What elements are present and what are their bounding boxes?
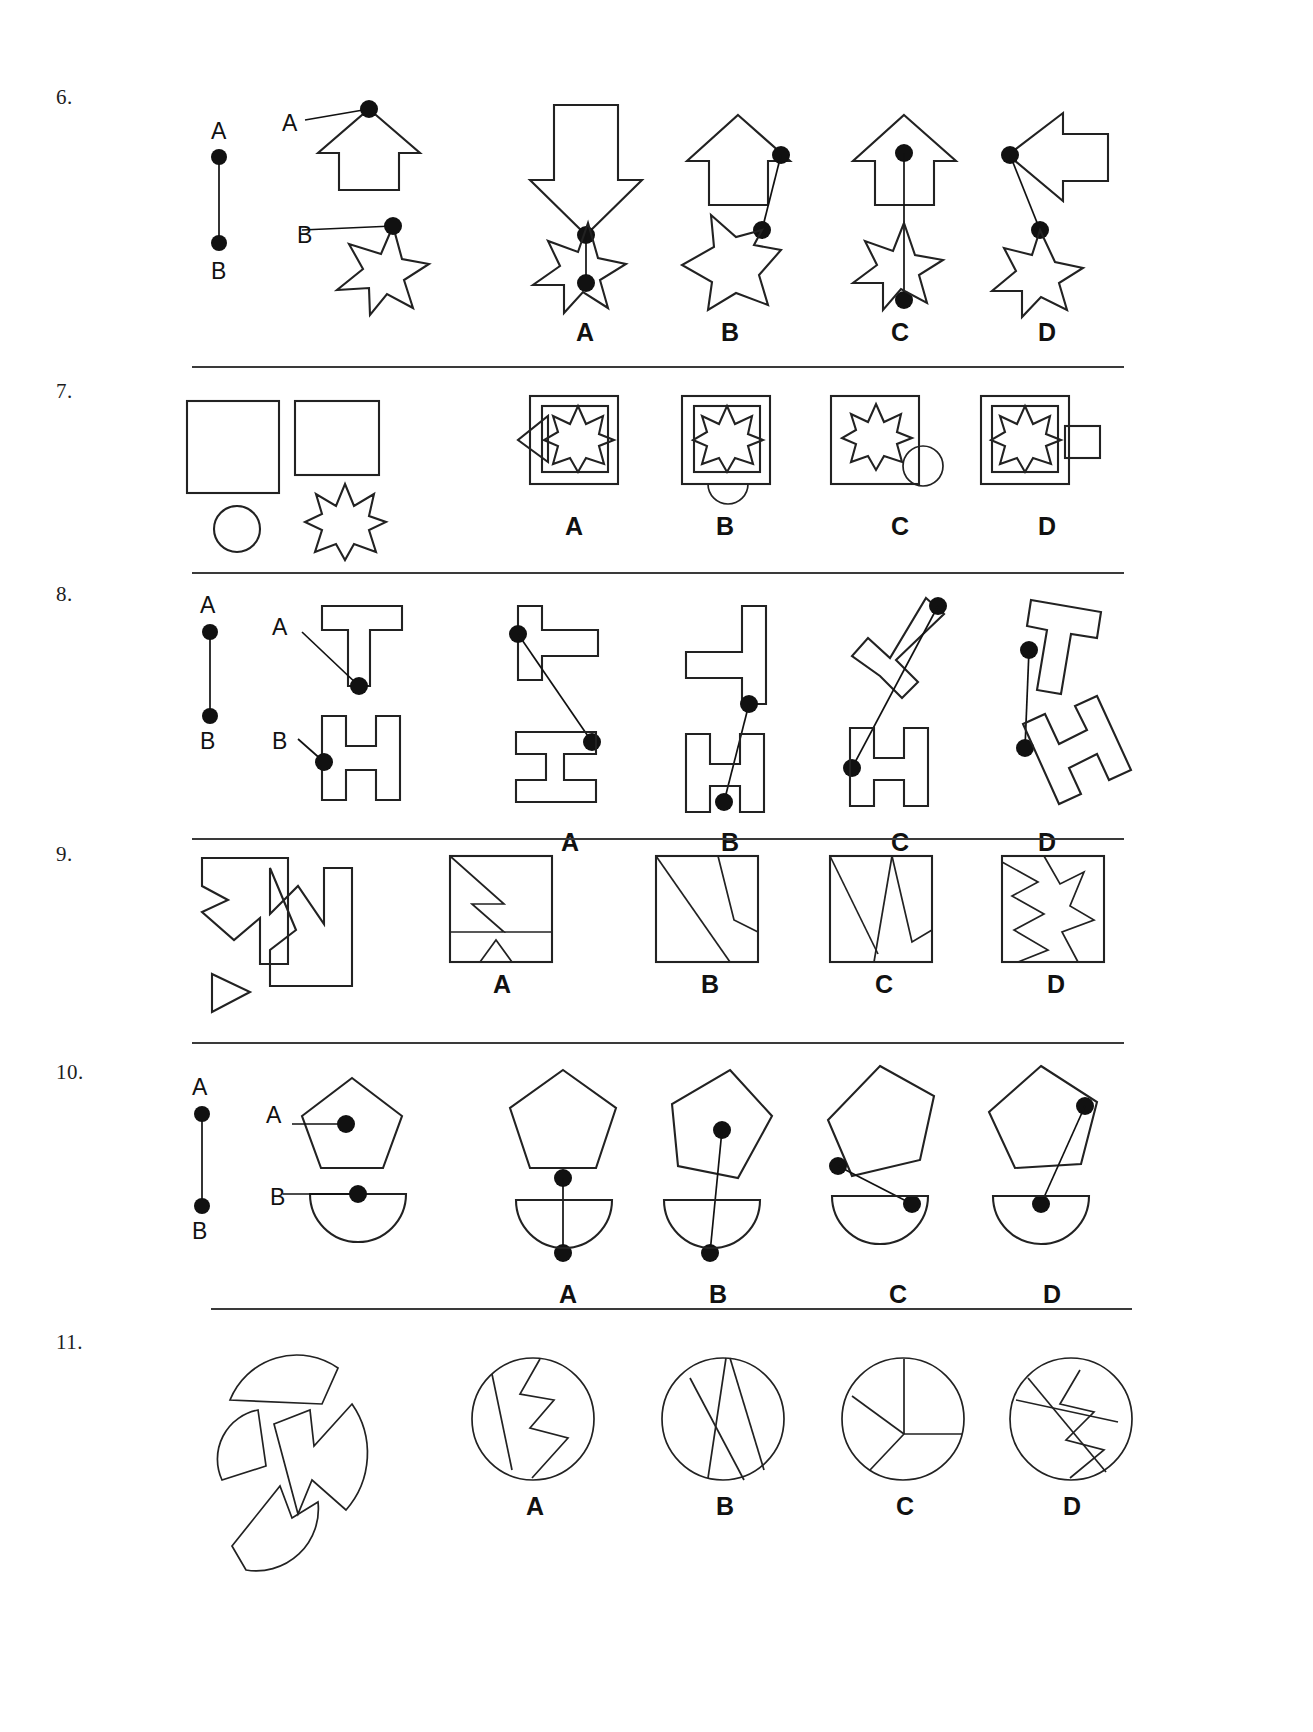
question-row-11: 11. A B (0, 1312, 1313, 1572)
q8-prompt-letter-T-block (320, 604, 420, 704)
q7-option-label-a[interactable]: A (554, 512, 594, 541)
question-number-8: 8. (56, 582, 73, 607)
q7-prompt-circle (212, 504, 264, 556)
q7-option-label-c[interactable]: C (880, 512, 920, 541)
q7-option-label-d[interactable]: D (1027, 512, 1067, 541)
worksheet-page: 6. A B A B A (0, 0, 1313, 1732)
q10-option-label-a[interactable]: A (548, 1280, 588, 1309)
q11-option-label-d[interactable]: D (1052, 1492, 1092, 1521)
q6-prompt-label-a: A (282, 110, 297, 137)
q8-key-label-b: B (200, 728, 215, 755)
q9-option-label-c[interactable]: C (864, 970, 904, 999)
q10-option-b-graphic (660, 1068, 780, 1278)
q11-option-label-b[interactable]: B (705, 1492, 745, 1521)
q8-key-label-a: A (200, 592, 215, 619)
question-number-9: 9. (56, 842, 73, 867)
q10-key-label-b: B (192, 1218, 207, 1245)
q7-prompt-small-square (294, 400, 384, 480)
q8-key-connector (190, 620, 250, 730)
q7-option-label-b[interactable]: B (705, 512, 745, 541)
question-number-10: 10. (56, 1060, 84, 1085)
q8-option-d-graphic (995, 598, 1125, 823)
question-row-6: 6. A B A B A (0, 0, 1313, 370)
q6-option-c-graphic (843, 105, 968, 310)
q8-prompt-label-a: A (272, 614, 287, 641)
q6-option-label-c[interactable]: C (880, 318, 920, 347)
question-number-7: 7. (56, 379, 73, 404)
q6-key-label-b: B (211, 258, 226, 285)
q11-option-c-graphic (840, 1356, 970, 1486)
q7-prompt-large-square (186, 400, 286, 500)
q6-prompt-label-b: B (297, 222, 312, 249)
q6-prompt-shape-six-point-star (325, 212, 445, 317)
q8-prompt-label-b: B (272, 728, 287, 755)
q6-option-label-a[interactable]: A (565, 318, 605, 347)
q9-option-label-d[interactable]: D (1036, 970, 1076, 999)
q6-option-a-star (528, 218, 643, 323)
q6-option-b-graphic (676, 105, 806, 305)
q9-option-c-graphic (828, 854, 938, 969)
q10-prompt-semicircle (308, 1186, 413, 1248)
divider-after-q6 (192, 366, 1124, 368)
question-row-10: 10. A B A B A (0, 1046, 1313, 1301)
q7-option-d-graphic (979, 394, 1114, 514)
divider-after-q9 (192, 1042, 1124, 1044)
q10-prompt-label-b: B (270, 1184, 285, 1211)
q11-prompt-circle-segment-bottom (222, 1484, 337, 1574)
q9-prompt-small-triangle (208, 970, 254, 1016)
divider-after-q8 (192, 838, 1124, 840)
q6-key-connector (200, 145, 260, 255)
question-row-9: 9. A B C (0, 842, 1313, 1027)
q11-option-b-graphic (660, 1356, 790, 1486)
q9-option-d-graphic (1000, 854, 1115, 969)
q9-prompt-zigzag-piece-right (262, 868, 367, 988)
q8-option-b-graphic (672, 604, 792, 819)
q9-option-b-graphic (654, 854, 764, 969)
q10-key-label-a: A (192, 1074, 207, 1101)
q7-option-c-graphic (829, 394, 954, 514)
q8-prompt-letter-H-block (320, 714, 420, 804)
q9-option-label-b[interactable]: B (690, 970, 730, 999)
q8-option-c-graphic (834, 596, 964, 821)
q7-option-a-graphic (518, 394, 628, 494)
question-row-8: 8. A B A B A (0, 576, 1313, 831)
q10-option-a-graphic (508, 1068, 628, 1278)
q10-option-d-graphic (985, 1064, 1115, 1279)
q8-option-a-graphic (510, 604, 630, 819)
q10-option-label-d[interactable]: D (1032, 1280, 1072, 1309)
q10-option-label-b[interactable]: B (698, 1280, 738, 1309)
divider-after-q10 (211, 1308, 1132, 1310)
q6-option-d-graphic (988, 105, 1118, 305)
question-number-11: 11. (56, 1330, 83, 1355)
q6-prompt-shape-up-arrow-house (305, 95, 435, 205)
question-number-6: 6. (56, 85, 73, 110)
q11-option-label-c[interactable]: C (885, 1492, 925, 1521)
q10-option-c-graphic (822, 1064, 952, 1279)
q11-option-d-graphic (1008, 1356, 1138, 1486)
q9-option-a-graphic (448, 854, 558, 969)
q6-option-label-b[interactable]: B (710, 318, 750, 347)
question-row-7: 7. A B (0, 370, 1313, 570)
q9-option-label-a[interactable]: A (482, 970, 522, 999)
divider-after-q7 (192, 572, 1124, 574)
q11-option-a-graphic (470, 1356, 600, 1486)
q6-key-label-a: A (211, 118, 226, 145)
q10-key-connector (184, 1102, 242, 1222)
q7-option-b-graphic (670, 394, 780, 514)
q10-prompt-pentagon (300, 1076, 410, 1176)
q6-option-label-d[interactable]: D (1027, 318, 1067, 347)
q10-option-label-c[interactable]: C (878, 1280, 918, 1309)
q11-option-label-a[interactable]: A (515, 1492, 555, 1521)
q7-prompt-eight-point-star (302, 482, 388, 562)
q10-prompt-label-a: A (266, 1102, 281, 1129)
